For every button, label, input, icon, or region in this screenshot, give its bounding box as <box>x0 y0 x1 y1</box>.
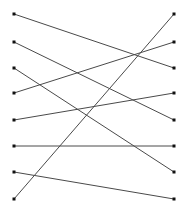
node-left-l4 <box>13 92 16 95</box>
right-nodes-group <box>173 13 176 201</box>
node-right-r5 <box>173 119 176 122</box>
edge-l7-r8 <box>14 172 174 199</box>
node-right-r1 <box>173 13 176 16</box>
node-left-l2 <box>13 41 16 44</box>
node-left-l7 <box>13 171 16 174</box>
node-left-l1 <box>13 13 16 16</box>
node-right-r2 <box>173 41 176 44</box>
node-right-r3 <box>173 67 176 70</box>
node-left-l3 <box>13 67 16 70</box>
node-right-r6 <box>173 145 176 148</box>
left-nodes-group <box>13 13 16 201</box>
bipartite-graph-figure <box>0 0 189 208</box>
node-right-r4 <box>173 92 176 95</box>
graph-canvas <box>0 0 189 208</box>
node-left-l5 <box>13 119 16 122</box>
edge-l3-r7 <box>14 68 174 172</box>
edges-group <box>14 14 174 199</box>
node-left-l6 <box>13 145 16 148</box>
edge-l4-r2 <box>14 42 174 93</box>
edge-l2-r5 <box>14 42 174 120</box>
edge-l8-r1 <box>14 14 174 199</box>
node-right-r8 <box>173 198 176 201</box>
node-left-l8 <box>13 198 16 201</box>
node-right-r7 <box>173 171 176 174</box>
